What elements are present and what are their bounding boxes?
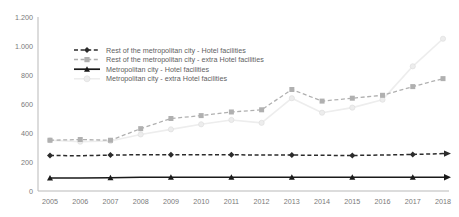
data-point-square [380, 93, 385, 98]
x-tick-label: 2007 [102, 197, 118, 206]
x-tick-label: 2008 [133, 197, 149, 206]
data-point-circle [289, 96, 294, 101]
x-tick-label: 2014 [314, 197, 330, 206]
line-chart: 02004006008001.0001.200 2005200620072008… [0, 0, 459, 217]
x-tick-label: 2017 [405, 197, 421, 206]
data-point-square [138, 126, 143, 131]
legend-item-label: Metropolitan city - extra Hotel faciliti… [106, 74, 227, 83]
x-tick-label: 2010 [193, 197, 209, 206]
data-point-diamond [289, 152, 295, 158]
y-axis-tick-labels: 02004006008001.0001.200 [15, 13, 33, 196]
data-point-square [84, 57, 89, 62]
legend-item-label: Metropolitan city - Hotel facilities [106, 65, 209, 74]
data-point-circle [380, 97, 385, 102]
data-point-square [78, 137, 83, 142]
data-point-square [108, 138, 113, 143]
data-point-diamond [228, 152, 234, 158]
y-tick-label: 1.000 [15, 42, 33, 51]
data-point-square [48, 138, 53, 143]
data-point-square [289, 87, 294, 92]
data-point-square [441, 76, 446, 81]
data-point-circle [410, 64, 415, 69]
data-point-circle [168, 127, 173, 132]
y-tick-label: 0 [29, 187, 33, 196]
legend-item-label: Rest of the metropolitan city - extra Ho… [106, 55, 264, 64]
data-point-circle [259, 120, 264, 125]
y-tick-label: 1.200 [15, 13, 33, 22]
data-point-diamond [349, 152, 355, 158]
data-point-square [199, 113, 204, 118]
x-tick-label: 2011 [224, 197, 239, 206]
data-point-square [320, 99, 325, 104]
data-point-circle [229, 117, 234, 122]
data-point-diamond [47, 152, 53, 158]
y-tick-label: 200 [21, 158, 33, 167]
data-point-diamond [410, 151, 416, 157]
chart-canvas: 02004006008001.0001.200 2005200620072008… [0, 0, 459, 217]
legend-item[interactable]: Rest of the metropolitan city - Hotel fa… [74, 46, 246, 55]
data-point-diamond [84, 47, 90, 53]
y-tick-label: 800 [21, 71, 33, 80]
data-point-diamond [107, 152, 113, 158]
x-tick-label: 2005 [42, 197, 58, 206]
x-tick-label: 2009 [163, 197, 179, 206]
data-point-circle [199, 122, 204, 127]
series-1 [48, 76, 446, 143]
axis-lines [38, 17, 449, 191]
y-tick-label: 600 [21, 100, 33, 109]
x-tick-label: 2015 [344, 197, 360, 206]
data-point-square [350, 96, 355, 101]
data-point-circle [319, 110, 324, 115]
x-tick-label: 2013 [284, 197, 300, 206]
data-point-circle [138, 132, 143, 137]
series-0 [47, 150, 451, 158]
legend-item-label: Rest of the metropolitan city - Hotel fa… [106, 46, 246, 55]
x-axis-tick-labels: 2005200620072008200920102011201220132014… [42, 197, 451, 206]
data-point-circle [440, 36, 445, 41]
data-point-circle [84, 76, 90, 82]
series-2 [47, 174, 451, 180]
data-point-square [259, 107, 264, 112]
data-point-square [229, 109, 234, 114]
x-tick-label: 2012 [254, 197, 270, 206]
chart-legend: Rest of the metropolitan city - Hotel fa… [74, 46, 264, 84]
data-point-square [168, 116, 173, 121]
series-line [50, 79, 443, 141]
data-point-circle [350, 105, 355, 110]
legend-item[interactable]: Metropolitan city - extra Hotel faciliti… [74, 74, 227, 83]
x-tick-label: 2016 [375, 197, 391, 206]
legend-item[interactable]: Rest of the metropolitan city - extra Ho… [74, 55, 264, 64]
legend-item[interactable]: Metropolitan city - Hotel facilities [74, 65, 209, 74]
x-tick-label: 2018 [435, 197, 451, 206]
x-tick-label: 2006 [72, 197, 88, 206]
y-tick-label: 400 [21, 129, 33, 138]
data-point-diamond [168, 152, 174, 158]
data-point-square [410, 84, 415, 89]
